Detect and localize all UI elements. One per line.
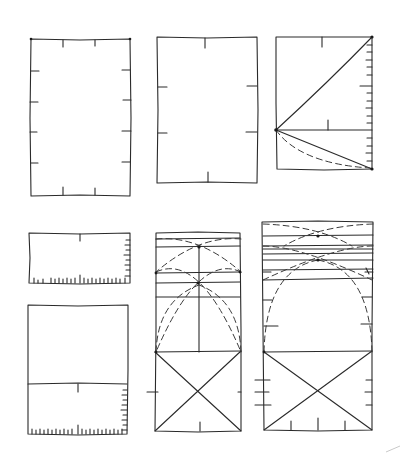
panel-7-ticks xyxy=(255,268,373,430)
panel-6-horizontals xyxy=(155,238,241,352)
panel-4 xyxy=(29,233,130,284)
panel-1 xyxy=(30,38,132,196)
panel-6-frame xyxy=(155,232,241,432)
panel-7-frame xyxy=(262,221,373,431)
panel-7-arcs xyxy=(263,224,373,352)
panel-5 xyxy=(28,305,128,435)
panel-7 xyxy=(255,221,373,431)
panel-4-ticks xyxy=(34,234,130,283)
panel-6 xyxy=(147,232,241,432)
stray-mark xyxy=(386,446,400,452)
panel-3-ticks xyxy=(322,37,372,161)
diagram-canvas xyxy=(0,0,400,467)
panel-1-ticks xyxy=(30,40,131,195)
panel-2-ticks xyxy=(158,38,257,182)
panel-3 xyxy=(274,35,373,170)
panel-2-frame xyxy=(157,37,258,183)
panel-6-cross xyxy=(155,351,241,431)
panel-1-frame xyxy=(30,39,131,196)
panel-7-horizontals xyxy=(263,235,373,352)
panel-5-frame xyxy=(28,305,128,435)
panel-2 xyxy=(157,37,258,183)
panel-3-diagonal-down xyxy=(276,130,372,169)
panel-5-ticks xyxy=(32,384,127,434)
panel-3-diagonal-up xyxy=(276,37,372,130)
